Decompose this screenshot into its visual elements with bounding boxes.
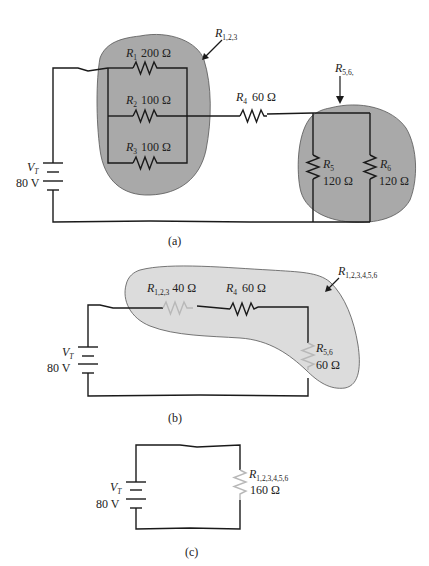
panel-a: VT 80 V R1200 Ω R2100 Ω R3100 Ω R460 Ω R…: [16, 26, 416, 248]
label-r4: R460 Ω: [235, 90, 276, 106]
group-r56-blob: [298, 105, 415, 222]
source-label-a: VT: [27, 160, 39, 176]
label-r1: R1200 Ω: [125, 46, 171, 62]
value-r5: 120 Ω: [323, 174, 353, 188]
value-r56-b: 60 Ω: [316, 358, 340, 372]
resistor-r123456-equivalent: [234, 470, 246, 500]
value-r123456-c: 160 Ω: [250, 483, 280, 497]
source-value-c: 80 V: [96, 497, 120, 511]
battery-a: [43, 163, 63, 190]
label-group-r123456: R1,2,3,4,5,6: [337, 264, 377, 280]
label-r123456-c: R1,2,3,4,5,6: [248, 467, 288, 483]
battery-b: [78, 347, 98, 373]
source-value-b: 80 V: [47, 361, 71, 375]
battery-c: [126, 482, 146, 508]
panel-c: VT 80 V R1,2,3,4,5,6 160 Ω (c): [96, 445, 288, 559]
label-r2: R2100 Ω: [125, 93, 171, 109]
circuit-diagram: VT 80 V R1200 Ω R2100 Ω R3100 Ω R460 Ω R…: [0, 0, 429, 566]
caption-b: (b): [168, 411, 182, 425]
arrow-r123: [204, 40, 222, 58]
label-r3: R3100 Ω: [125, 140, 171, 156]
label-r4-b: R460 Ω: [225, 281, 266, 297]
label-group-r123: R1,2,3: [214, 26, 238, 42]
panel-b: VT 80 V R1,2,340 Ω R460 Ω R5,6 60 Ω R1,2…: [47, 264, 377, 425]
source-value-a: 80 V: [16, 176, 40, 190]
caption-a: (a): [168, 234, 181, 248]
caption-c: (c): [185, 545, 198, 559]
resistor-r4: [240, 110, 267, 122]
source-label-b: VT: [62, 345, 74, 361]
source-label-c: VT: [110, 480, 122, 496]
label-group-r56: R5,6,: [334, 61, 354, 77]
value-r6: 120 Ω: [379, 174, 409, 188]
